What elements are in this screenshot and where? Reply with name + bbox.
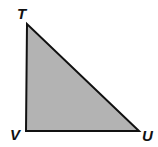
vertex-label-t: T	[17, 5, 28, 22]
vertex-label-u: U	[142, 127, 154, 144]
triangle-diagram: T V U	[0, 0, 158, 147]
vertex-label-v: V	[10, 126, 22, 143]
triangle-tvu	[26, 24, 139, 131]
